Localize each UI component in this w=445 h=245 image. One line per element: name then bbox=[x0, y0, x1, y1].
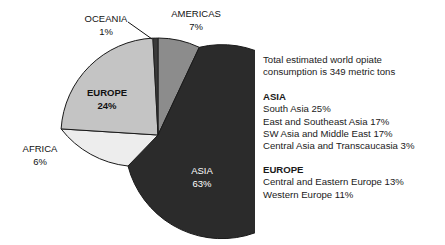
notes-group-title-europe: EUROPE bbox=[263, 164, 445, 176]
asia-value: 63% bbox=[192, 178, 212, 189]
oceania-label: OCEANIA bbox=[85, 13, 128, 24]
notes-group-asia: ASIA South Asia 25% East and Southeast A… bbox=[263, 91, 445, 153]
opiate-consumption-figure: OCEANIA 1% AMERICAS 7% AFRICA 6% EUROPE … bbox=[0, 0, 445, 245]
notes-group-title-asia: ASIA bbox=[263, 91, 445, 103]
notes-item-western-europe: Western Europe 11% bbox=[263, 189, 445, 201]
total-note-line-1: Total estimated world opiate bbox=[263, 54, 445, 66]
notes-panel: Total estimated world opiate consumption… bbox=[263, 54, 445, 201]
asia-label: ASIA bbox=[191, 165, 213, 176]
notes-item-east-southeast-asia: East and Southeast Asia 17% bbox=[263, 116, 445, 128]
total-note-line-2: consumption is 349 metric tons bbox=[263, 66, 445, 78]
oceania-leader-line bbox=[128, 22, 152, 39]
africa-value: 6% bbox=[33, 156, 47, 167]
notes-group-europe: EUROPE Central and Eastern Europe 13% We… bbox=[263, 164, 445, 201]
notes-item-sw-asia-middle-east: SW Asia and Middle East 17% bbox=[263, 128, 445, 140]
oceania-value: 1% bbox=[99, 26, 113, 37]
pie-chart-svg: OCEANIA 1% AMERICAS 7% AFRICA 6% EUROPE … bbox=[0, 0, 255, 245]
europe-value: 24% bbox=[97, 100, 117, 111]
total-consumption-note: Total estimated world opiate consumption… bbox=[263, 54, 445, 79]
europe-label: EUROPE bbox=[87, 87, 127, 98]
pie-chart: OCEANIA 1% AMERICAS 7% AFRICA 6% EUROPE … bbox=[0, 0, 255, 245]
notes-item-central-eastern-europe: Central and Eastern Europe 13% bbox=[263, 176, 445, 188]
americas-label: AMERICAS bbox=[171, 8, 221, 19]
notes-item-central-asia-transcaucasia: Central Asia and Transcaucasia 3% bbox=[263, 140, 445, 152]
africa-label: AFRICA bbox=[23, 143, 59, 154]
notes-item-south-asia: South Asia 25% bbox=[263, 103, 445, 115]
americas-value: 7% bbox=[189, 21, 203, 32]
